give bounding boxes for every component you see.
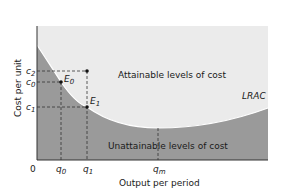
attainable-label: Attainable levels of cost xyxy=(118,70,227,80)
c0-tick: c0 xyxy=(26,77,36,89)
qm-tick: qm xyxy=(153,164,166,176)
c1-tick: c1 xyxy=(26,102,35,114)
origin-tick: 0 xyxy=(30,164,36,174)
point-e0 xyxy=(59,80,63,84)
point-e1 xyxy=(85,105,89,109)
unattainable-label: Unattainable levels of cost xyxy=(108,141,228,151)
y-axis-title: Cost per unit xyxy=(13,58,23,117)
point-q1-c2 xyxy=(85,69,89,73)
lrac-diagram: E0 E1 Attainable levels of cost Unattain… xyxy=(0,0,283,196)
q0-tick: q0 xyxy=(56,164,67,176)
lrac-label: LRAC xyxy=(242,91,266,101)
x-axis-title: Output per period xyxy=(119,178,200,188)
q1-tick: q1 xyxy=(83,164,93,176)
